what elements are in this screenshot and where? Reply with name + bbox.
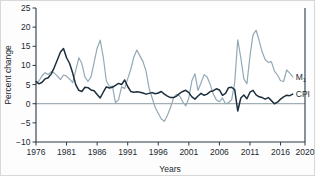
- x-axis-title: Years: [159, 164, 180, 174]
- x-tick-label: 2020: [296, 147, 315, 157]
- x-tick-label: 1976: [27, 147, 46, 157]
- y-tick-label: 20: [21, 22, 31, 32]
- x-tick-label: 2001: [179, 147, 198, 157]
- y-tick-label: 10: [21, 60, 31, 70]
- x-tick-label: 2016: [271, 147, 290, 157]
- x-tick-label: 2006: [210, 147, 229, 157]
- y-axis-title: Percent change: [3, 45, 13, 105]
- line-chart: −10−50510152025 197619811986199119962001…: [0, 0, 316, 177]
- plot-background: [36, 8, 305, 142]
- x-tick-label: 1991: [118, 147, 137, 157]
- y-axis-ticks: −10−50510152025: [16, 3, 36, 147]
- y-tick-label: 5: [26, 80, 31, 90]
- x-tick-label: 1981: [57, 147, 76, 157]
- y-tick-label: −5: [21, 118, 31, 128]
- x-tick-label: 1986: [88, 147, 107, 157]
- series-label-cpi: CPI: [296, 89, 310, 99]
- y-tick-label: −10: [16, 137, 31, 147]
- x-axis-ticks: 1976198119861991199620012006201120162020: [27, 142, 315, 157]
- x-tick-label: 2011: [241, 147, 260, 157]
- x-tick-label: 1996: [149, 147, 168, 157]
- y-tick-label: 25: [21, 3, 31, 13]
- chart-figure: −10−50510152025 197619811986199119962001…: [0, 0, 316, 177]
- y-tick-label: 15: [21, 41, 31, 51]
- y-tick-label: 0: [26, 99, 31, 109]
